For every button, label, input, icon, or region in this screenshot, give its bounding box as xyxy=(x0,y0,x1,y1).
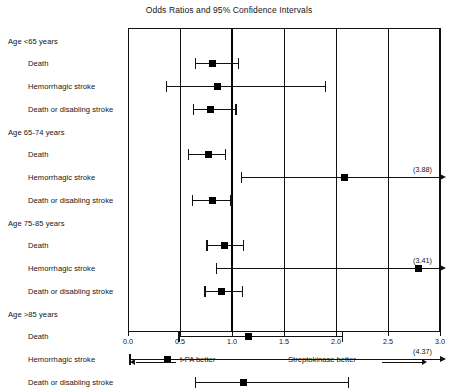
row-label-0-2: Death or disabling stroke xyxy=(28,105,113,114)
x-tick-label-2: 1.0 xyxy=(227,337,237,346)
row-label-2-0: Death xyxy=(28,241,49,250)
point-estimate-marker-0-0 xyxy=(209,60,216,67)
group-label-2: Age 75-85 years xyxy=(8,219,64,228)
x-tick-2 xyxy=(232,332,233,336)
gridline-0.5 xyxy=(180,28,181,332)
x-tick-label-5: 2.5 xyxy=(383,337,393,346)
streptokinase-arrow-icon xyxy=(422,359,427,365)
streptokinase-rule xyxy=(382,362,422,363)
x-tick-label-6: 3.0 xyxy=(435,337,445,346)
gridline-1.5 xyxy=(284,28,285,332)
ci-cap-upper-0-1 xyxy=(325,81,326,92)
ci-cap-upper-3-0 xyxy=(342,331,343,342)
x-tick-4 xyxy=(336,332,337,336)
point-estimate-marker-2-0 xyxy=(221,242,228,249)
ci-cap-lower-2-2 xyxy=(204,286,205,297)
t-pa-better-label: t-PA better xyxy=(180,355,215,364)
point-estimate-marker-2-2 xyxy=(218,288,225,295)
ci-line-2-1 xyxy=(216,268,440,269)
ci-line-3-1 xyxy=(130,359,440,360)
point-estimate-marker-2-1 xyxy=(415,265,422,272)
ci-line-3-2 xyxy=(196,382,349,383)
ci-cap-lower-0-1 xyxy=(166,81,167,92)
t-pa-rule xyxy=(136,362,176,363)
x-tick-label-3: 1.5 xyxy=(279,337,289,346)
point-estimate-marker-3-0 xyxy=(245,333,252,340)
ci-upper-value-label-1-1: (3.88) xyxy=(413,165,432,174)
ci-cap-lower-2-1 xyxy=(216,263,217,274)
x-tick-1 xyxy=(180,332,181,336)
gridline-1.0 xyxy=(231,28,233,332)
row-label-3-2: Death or disabling stroke xyxy=(28,378,113,387)
ci-cap-upper-1-2 xyxy=(230,195,231,206)
ci-cap-upper-1-0 xyxy=(225,149,226,160)
chart-title: Odds Ratios and 95% Confidence Intervals xyxy=(0,5,458,15)
x-tick-5 xyxy=(388,332,389,336)
group-label-0: Age <65 years xyxy=(8,37,58,46)
gridline-3.0 xyxy=(440,28,441,332)
point-estimate-marker-1-1 xyxy=(341,174,348,181)
ci-arrow-icon-3-1 xyxy=(440,356,446,362)
ci-cap-lower-3-2 xyxy=(195,377,196,388)
ci-cap-lower-1-0 xyxy=(188,149,189,160)
row-label-0-0: Death xyxy=(28,59,49,68)
point-estimate-marker-1-2 xyxy=(209,197,216,204)
x-tick-0 xyxy=(128,332,129,336)
group-label-1: Age 65-74 years xyxy=(8,128,64,137)
ci-cap-lower-1-1 xyxy=(241,172,242,183)
ci-cap-upper-2-2 xyxy=(242,286,243,297)
ci-line-0-1 xyxy=(166,86,325,87)
gridline-0.0 xyxy=(128,28,129,332)
x-tick-3 xyxy=(284,332,285,336)
ci-arrow-icon-1-1 xyxy=(440,174,446,180)
ci-upper-value-label-2-1: (3.41) xyxy=(413,256,432,265)
row-label-3-0: Death xyxy=(28,332,49,341)
gridline-2.5 xyxy=(388,28,389,332)
row-label-1-2: Death or disabling stroke xyxy=(28,196,113,205)
row-label-1-0: Death xyxy=(28,150,49,159)
row-label-2-1: Hemorrhagic stroke xyxy=(28,264,95,273)
ci-line-0-0 xyxy=(196,63,239,64)
row-label-0-1: Hemorrhagic stroke xyxy=(28,82,95,91)
point-estimate-marker-3-2 xyxy=(240,379,247,386)
ci-cap-upper-2-0 xyxy=(243,240,244,251)
t-pa-arrow-icon xyxy=(130,359,135,365)
ci-cap-lower-0-0 xyxy=(195,58,196,69)
ci-cap-lower-1-2 xyxy=(192,195,193,206)
x-tick-label-0: 0.0 xyxy=(123,337,133,346)
row-label-1-1: Hemorrhagic stroke xyxy=(28,173,95,182)
streptokinase-better-label: Streptokinase better xyxy=(288,355,356,364)
gridline-2.0 xyxy=(336,28,337,332)
ci-line-0-2 xyxy=(194,109,237,110)
ci-cap-upper-0-2 xyxy=(235,104,236,115)
group-label-3: Age >85 years xyxy=(8,310,58,319)
x-tick-label-4: 2.0 xyxy=(331,337,341,346)
ci-upper-value-label-3-1: (4.37) xyxy=(413,347,432,356)
point-estimate-marker-0-2 xyxy=(207,106,214,113)
ci-cap-upper-0-0 xyxy=(238,58,239,69)
x-tick-label-1: 0.5 xyxy=(175,337,185,346)
x-tick-6 xyxy=(440,332,441,336)
ci-arrow-icon-2-1 xyxy=(440,265,446,271)
ci-cap-upper-3-2 xyxy=(348,377,349,388)
ci-line-3-0 xyxy=(179,336,342,337)
point-estimate-marker-1-0 xyxy=(205,151,212,158)
ci-cap-lower-2-0 xyxy=(206,240,207,251)
ci-cap-lower-0-2 xyxy=(193,104,194,115)
row-label-2-2: Death or disabling stroke xyxy=(28,287,113,296)
point-estimate-marker-0-1 xyxy=(214,83,221,90)
row-label-3-1: Hemorrhagic stroke xyxy=(28,355,95,364)
